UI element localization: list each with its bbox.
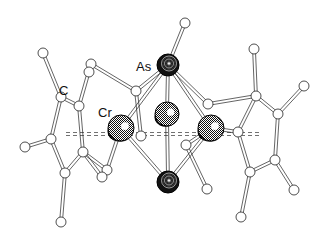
bond bbox=[78, 106, 85, 152]
label-as: As bbox=[136, 60, 151, 73]
carbon-atom bbox=[289, 185, 299, 195]
carbon-atom bbox=[236, 212, 246, 222]
carbon-atom bbox=[233, 127, 243, 137]
carbon-atom bbox=[203, 99, 213, 109]
label-c: C bbox=[59, 84, 68, 97]
carbon-atom bbox=[38, 48, 48, 58]
carbon-atom bbox=[270, 155, 280, 165]
carbon-atom bbox=[181, 140, 191, 150]
carbon-atom bbox=[245, 167, 255, 177]
bond bbox=[60, 173, 67, 222]
highlight bbox=[211, 122, 219, 130]
bond bbox=[240, 172, 252, 218]
carbon-atom bbox=[131, 86, 141, 96]
highlight bbox=[121, 122, 129, 130]
bond bbox=[90, 63, 136, 92]
highlight bbox=[167, 109, 174, 116]
carbon-atom bbox=[202, 184, 212, 194]
bond bbox=[237, 132, 252, 173]
carbon-atom bbox=[46, 134, 56, 144]
carbon-atom bbox=[60, 168, 70, 178]
carbon-atom bbox=[249, 44, 259, 54]
bond bbox=[50, 97, 63, 140]
chromium-atom bbox=[155, 102, 179, 126]
bond bbox=[253, 49, 258, 96]
arsenic-atom bbox=[157, 171, 179, 193]
carbon-atom bbox=[299, 81, 309, 91]
metal-atoms bbox=[107, 54, 224, 193]
carbon-atom bbox=[20, 142, 30, 152]
molecular-structure-diagram bbox=[0, 0, 325, 238]
carbon-atom bbox=[251, 91, 261, 101]
label-cr: Cr bbox=[98, 106, 112, 119]
carbon-atom bbox=[136, 131, 146, 141]
carbon-atom bbox=[78, 147, 88, 157]
carbon-atom bbox=[56, 217, 66, 227]
bond bbox=[135, 91, 143, 136]
carbon-atom bbox=[84, 67, 94, 77]
chromium-atom bbox=[198, 115, 224, 141]
bond bbox=[208, 95, 256, 106]
carbon-atom bbox=[180, 18, 190, 28]
bond bbox=[274, 114, 280, 160]
carbon-atom bbox=[97, 172, 107, 182]
bond bbox=[185, 144, 209, 189]
carbon-atom bbox=[273, 109, 283, 119]
arsenic-atom bbox=[157, 54, 179, 76]
carbon-atom bbox=[74, 101, 84, 111]
